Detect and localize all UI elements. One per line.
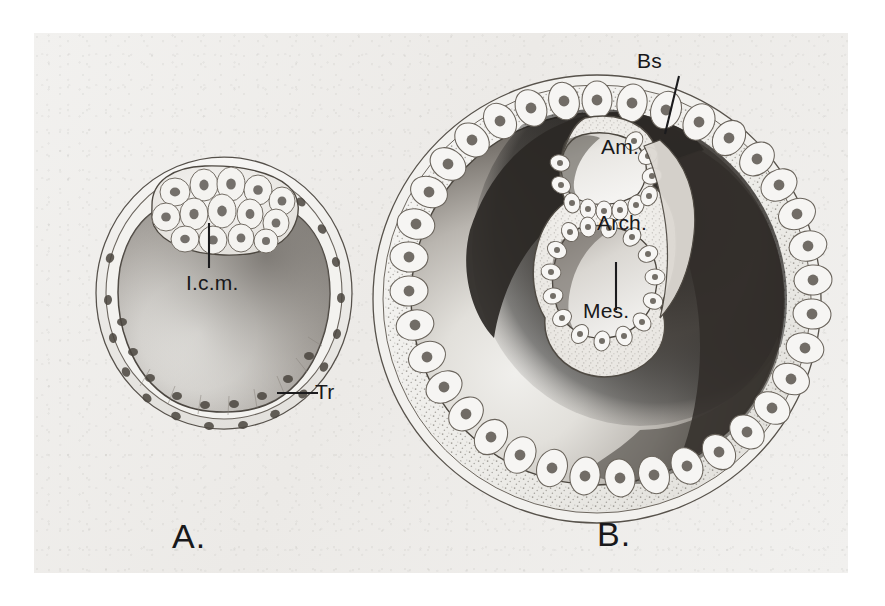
label-icm: I.c.m. <box>186 272 239 293</box>
panel-caption-b: B. <box>597 517 631 551</box>
label-am: Am. <box>601 136 639 157</box>
figure-plate: I.c.m. Tr Bs Am. Arch. Mes. A. B. <box>0 0 885 606</box>
figure-drawing <box>0 0 885 606</box>
label-bs: Bs <box>637 50 662 71</box>
label-mes: Mes. <box>583 300 629 321</box>
panel-caption-a: A. <box>172 519 206 553</box>
label-tr: Tr <box>315 381 334 402</box>
label-arch: Arch. <box>597 212 647 233</box>
